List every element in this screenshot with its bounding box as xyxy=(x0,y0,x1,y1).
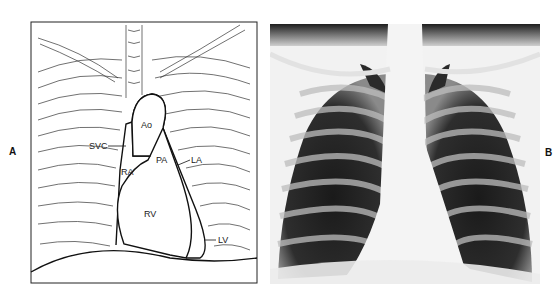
heart-diagram: Ao SVC PA LA RA RV LV xyxy=(0,0,265,296)
chest-xray xyxy=(270,24,540,284)
label-ao: Ao xyxy=(141,120,152,130)
label-svc: SVC xyxy=(89,141,108,151)
label-lv: LV xyxy=(218,235,228,245)
label-pa: PA xyxy=(156,155,167,165)
xray-image xyxy=(270,24,540,284)
label-ra: RA xyxy=(121,167,134,177)
panel-label-b: B xyxy=(545,147,552,158)
label-rv: RV xyxy=(144,209,156,219)
label-la: LA xyxy=(191,155,202,165)
